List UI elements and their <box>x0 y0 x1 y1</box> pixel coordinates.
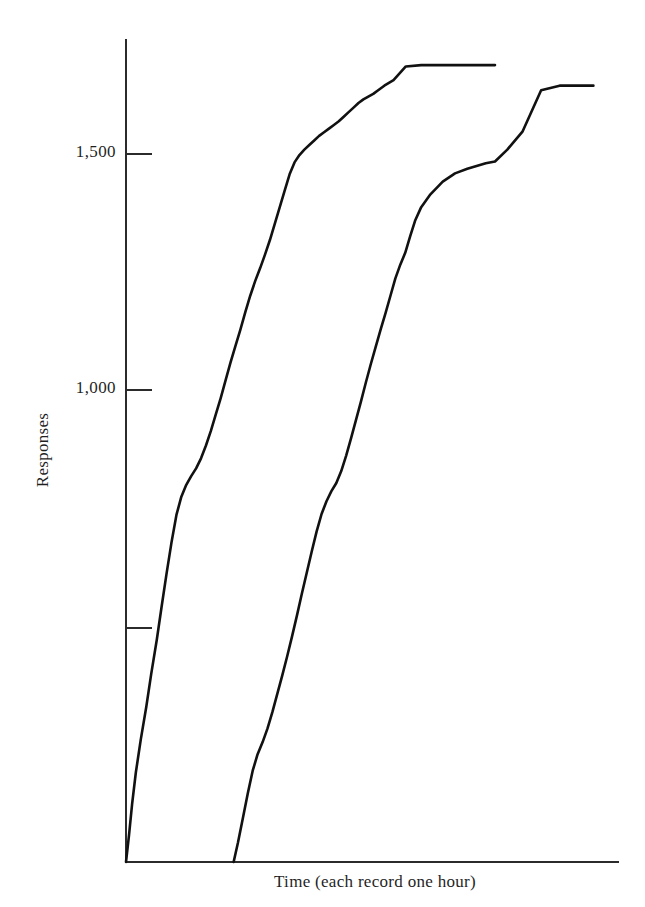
cumulative-record-figure: 1,500 1,000 Responses Time (each record … <box>0 0 645 907</box>
data-curves-group <box>126 65 593 862</box>
x-axis-title: Time (each record one hour) <box>130 872 620 892</box>
y-axis-title: Responses <box>33 390 53 510</box>
chart-plot-area <box>0 0 645 907</box>
axes-group <box>126 40 618 862</box>
y-tick-label-1000: 1,000 <box>48 378 116 398</box>
curve-record-2 <box>234 86 594 862</box>
y-tick-label-1500: 1,500 <box>48 142 116 162</box>
y-axis-ticks-group <box>126 154 152 628</box>
